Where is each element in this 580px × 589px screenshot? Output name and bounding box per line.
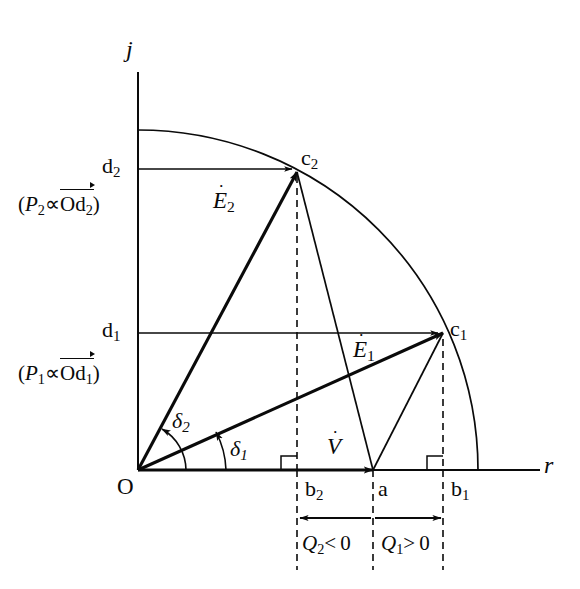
- point-label-b2-base: b: [305, 476, 316, 501]
- point-label-c1: c1: [450, 316, 467, 344]
- annotation-p1: (P1∝Od1): [18, 360, 100, 388]
- point-label-d2-sub: 2: [113, 164, 120, 180]
- annotation-q2: Q2< 0: [302, 531, 351, 558]
- annotation-q1: Q1> 0: [381, 531, 430, 558]
- right-angle-mark-b2: [281, 456, 297, 470]
- point-label-d1-base: d: [102, 317, 113, 342]
- point-label-c2-sub: 2: [311, 156, 318, 172]
- annotation-p2-symbol: P: [25, 192, 38, 216]
- annotation-p2-close: ): [93, 192, 100, 216]
- angle-label-delta2-sub: 2: [182, 419, 189, 435]
- annotation-q2-relation: < 0: [324, 531, 351, 555]
- point-label-b2: b2: [305, 476, 323, 504]
- overline-bar: [60, 189, 94, 190]
- overarrow-head-icon: [90, 351, 95, 357]
- point-label-a: a: [378, 476, 388, 502]
- j-axis-label: j: [126, 36, 133, 63]
- right-angle-mark-b1: [427, 456, 443, 470]
- annotation-q1-relation: > 0: [403, 531, 430, 555]
- angle-label-delta1-base: δ: [230, 436, 240, 461]
- point-label-b1-sub: 1: [462, 487, 469, 503]
- projection-line-group: [138, 169, 443, 570]
- phasor-label-E1-sub: 1: [367, 347, 375, 364]
- phasor-label-E1: ˙E1: [353, 337, 375, 365]
- annotation-p2-vector-sub: 2: [86, 202, 93, 218]
- point-label-d1: d1: [102, 317, 120, 345]
- annotation-p2-open: (: [18, 192, 25, 216]
- overline-bar: [60, 358, 94, 359]
- proportional-icon: ∝: [45, 192, 60, 216]
- angle-label-delta1-sub: 1: [240, 447, 247, 463]
- axis-group: [138, 72, 540, 470]
- point-label-b2-sub: 2: [316, 487, 323, 503]
- annotation-p1-vector-base: Od: [60, 361, 86, 385]
- proportional-icon: ∝: [45, 361, 60, 385]
- phasor-label-E2: ˙E2: [213, 188, 235, 216]
- point-label-b1: b1: [451, 476, 469, 504]
- angle-label-delta2: δ2: [172, 408, 190, 436]
- annotation-p1-sub: 1: [38, 371, 45, 387]
- phasor-E1-arrow: [138, 333, 443, 470]
- point-label-c2-base: c: [301, 145, 311, 170]
- angle-label-delta1: δ1: [230, 436, 248, 464]
- point-label-c1-sub: 1: [460, 327, 467, 343]
- dot-accent: ˙: [217, 182, 224, 202]
- r-axis-label: r: [544, 452, 553, 479]
- point-label-d2-base: d: [102, 153, 113, 178]
- annotation-p2-vector-base: Od: [60, 192, 86, 216]
- phasor-label-V: ˙V: [327, 434, 341, 460]
- a-to-c1-line: [373, 333, 443, 470]
- annotation-p1-open: (: [18, 361, 25, 385]
- annotation-p2: (P2∝Od2): [18, 191, 100, 219]
- delta1-angle-arc: [216, 432, 226, 470]
- point-label-c1-base: c: [450, 316, 460, 341]
- point-label-b1-base: b: [451, 476, 462, 501]
- phasor-label-E2-base: ˙E: [213, 188, 227, 214]
- point-label-c2: c2: [301, 145, 318, 173]
- a-to-c2-line: [297, 172, 373, 470]
- annotation-q2-symbol: Q: [302, 531, 317, 555]
- annotation-p1-symbol: P: [25, 361, 38, 385]
- a-vertex-line-group: [297, 172, 443, 470]
- annotation-p2-vector: Od2: [60, 191, 93, 219]
- annotation-p1-vector: Od1: [60, 360, 93, 388]
- point-label-d1-sub: 1: [113, 328, 120, 344]
- right-angle-mark-group: [281, 456, 443, 470]
- phasor-E2-arrow: [138, 172, 297, 470]
- origin-label: O: [117, 474, 134, 500]
- phasor-diagram-figure: j r O c1 c2 d1 d2 a b1 b2 ˙V ˙E1 ˙E2 δ1 …: [0, 0, 580, 589]
- phasor-label-E1-base: ˙E: [353, 337, 367, 363]
- phasor-label-E2-sub: 2: [227, 198, 235, 215]
- annotation-p1-close: ): [93, 361, 100, 385]
- annotation-p1-vector-sub: 1: [86, 371, 93, 387]
- annotation-q1-symbol: Q: [381, 531, 396, 555]
- annotation-p2-sub: 2: [38, 202, 45, 218]
- point-label-d2: d2: [102, 153, 120, 181]
- dot-accent: ˙: [331, 428, 338, 448]
- diagram-canvas: [0, 0, 580, 589]
- overarrow-head-icon: [90, 182, 95, 188]
- phasor-label-V-base: ˙V: [327, 434, 341, 460]
- dot-accent: ˙: [357, 331, 364, 351]
- angle-label-delta2-base: δ: [172, 408, 182, 433]
